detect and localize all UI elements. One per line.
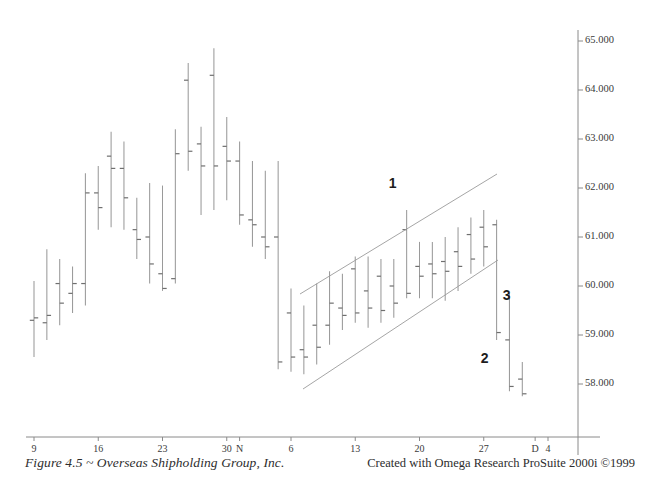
price-axis-tick-label: 64.000 (585, 83, 614, 94)
date-axis-tick-label: 4 (546, 443, 551, 454)
ohlc-bar (43, 249, 51, 340)
ohlc-bar-series (30, 48, 527, 396)
ohlc-bar (480, 210, 488, 266)
date-axis-tick-label: 30 (222, 443, 232, 454)
ohlc-bar (454, 227, 462, 291)
ohlc-bar (287, 288, 295, 371)
chart-figure: 65.00064.00063.00062.00061.00060.00059.0… (0, 0, 645, 491)
annotation-label-3: 3 (503, 287, 511, 303)
ohlc-bar (415, 242, 423, 298)
ohlc-bar (428, 242, 436, 298)
ohlc-bar (68, 266, 76, 313)
ohlc-bar (158, 186, 166, 291)
ohlc-bar (120, 141, 128, 229)
date-axis-tick-label: 16 (93, 443, 103, 454)
ohlc-bar (197, 127, 205, 215)
ohlc-bar (248, 161, 256, 247)
date-axis: 9162330N6132027D4 (26, 437, 600, 454)
ohlc-bar (81, 173, 89, 305)
ohlc-bar (518, 362, 526, 396)
price-axis-tick-label: 59.000 (585, 328, 614, 339)
price-axis-tick-label: 61.000 (585, 230, 614, 241)
ohlc-bar (133, 198, 141, 259)
price-axis-tick-label: 60.000 (585, 279, 614, 290)
ohlc-bar (300, 306, 308, 375)
ohlc-bar (223, 117, 231, 200)
annotation-label-1: 1 (389, 175, 397, 191)
ohlc-bar (351, 257, 359, 323)
figure-caption: Figure 4.5 ~ Overseas Shipholding Group,… (25, 455, 284, 471)
price-axis-tick-label: 63.000 (585, 132, 614, 143)
ohlc-bar (338, 274, 346, 330)
ohlc-bar (210, 48, 218, 210)
ohlc-bar (492, 220, 500, 340)
date-axis-tick-label: N (236, 443, 243, 454)
ohlc-bar (145, 183, 153, 283)
date-axis-tick-label: 13 (350, 443, 360, 454)
price-axis-tick-label: 65.000 (585, 34, 614, 45)
date-axis-tick-label: 20 (415, 443, 425, 454)
ohlc-bar (325, 271, 333, 345)
ohlc-bar (467, 217, 475, 273)
ohlc-bar (30, 281, 38, 357)
ohlc-bar (441, 237, 449, 301)
date-axis-tick-label: D (532, 443, 539, 454)
ohlc-bar (402, 210, 410, 298)
price-axis: 65.00064.00063.00062.00061.00060.00059.0… (578, 30, 614, 455)
ohlc-bar (261, 171, 269, 259)
date-axis-tick-label: 6 (289, 443, 294, 454)
price-chart-canvas: 65.00064.00063.00062.00061.00060.00059.0… (0, 0, 645, 491)
ohlc-bar (377, 259, 385, 323)
date-axis-tick-label: 9 (32, 443, 37, 454)
ohlc-bar (94, 166, 102, 230)
ohlc-bar (313, 284, 321, 365)
ohlc-bar (390, 259, 398, 318)
ohlc-bar (107, 132, 115, 228)
price-axis-tick-label: 58.000 (585, 377, 614, 388)
ohlc-bar (274, 161, 282, 369)
date-axis-tick-label: 23 (158, 443, 168, 454)
ohlc-bar (171, 129, 179, 283)
ohlc-bar (56, 259, 64, 325)
ohlc-bar (235, 141, 243, 224)
software-credit: Created with Omega Research ProSuite 200… (367, 456, 635, 471)
ohlc-bar (184, 63, 192, 171)
ohlc-bar (505, 293, 513, 391)
date-axis-tick-label: 27 (479, 443, 489, 454)
annotation-label-2: 2 (481, 350, 489, 366)
lower-channel-line (303, 260, 498, 389)
ohlc-bar (364, 257, 372, 328)
price-axis-tick-label: 62.000 (585, 181, 614, 192)
